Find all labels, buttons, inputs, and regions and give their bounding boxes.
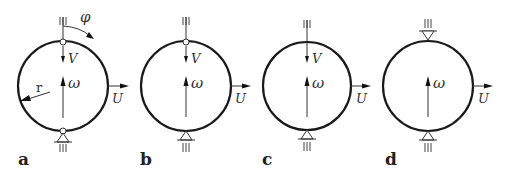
ground-hatch-bottom-icon — [304, 142, 310, 151]
omega-symbol: ω — [68, 74, 80, 92]
u-symbol: U — [235, 91, 247, 106]
ground-hatch-top-icon — [425, 19, 431, 28]
omega-arrowhead-icon — [184, 76, 189, 86]
panel-label-a: a — [18, 149, 29, 169]
panel-c: V ω U c — [262, 20, 371, 169]
top-pin-support-icon — [422, 31, 434, 40]
u-symbol: U — [356, 91, 368, 106]
v-arrowhead-icon — [184, 56, 188, 63]
u-symbol: U — [478, 91, 490, 106]
v-symbol: V — [191, 51, 202, 66]
phi-arc — [63, 26, 90, 36]
bottom-pin-support-icon — [301, 130, 313, 139]
panel-d: ω U d — [383, 19, 493, 169]
figure-canvas: φ V ω r U a — [0, 0, 509, 170]
bottom-pin-support-icon — [57, 133, 69, 142]
v-arrowhead-icon — [305, 56, 309, 63]
panel-label-b: b — [140, 149, 152, 169]
ground-hatch-bottom-icon — [183, 143, 189, 152]
radius-arrowhead-icon — [20, 95, 31, 101]
bottom-pin-support-icon — [422, 131, 434, 140]
u-arrowhead-icon — [242, 84, 251, 89]
v-symbol: V — [68, 51, 79, 66]
bottom-pin-support-icon — [180, 131, 192, 140]
v-symbol: V — [312, 51, 323, 66]
panel-label-c: c — [262, 149, 272, 169]
mechanics-diagram: φ V ω r U a — [0, 0, 509, 170]
phi-symbol: φ — [80, 8, 91, 26]
ground-hatch-bottom-icon — [60, 144, 66, 152]
omega-symbol: ω — [191, 74, 203, 92]
v-arrowhead-icon — [61, 56, 65, 63]
u-symbol: U — [112, 91, 124, 106]
omega-arrowhead-icon — [426, 76, 431, 86]
ground-hatch-bottom-icon — [425, 143, 431, 152]
panel-a: φ V ω r U a — [18, 8, 129, 169]
omega-symbol: ω — [312, 74, 324, 92]
omega-symbol: ω — [433, 74, 445, 92]
panel-b: V ω U b — [140, 17, 251, 169]
omega-arrowhead-icon — [61, 76, 66, 86]
omega-arrowhead-icon — [305, 76, 310, 86]
phi-arrowhead-icon — [86, 32, 94, 39]
u-arrowhead-icon — [120, 84, 129, 89]
top-hinge-icon — [60, 39, 66, 45]
top-hinge-icon — [183, 39, 189, 45]
u-arrowhead-icon — [362, 84, 371, 89]
u-arrowhead-icon — [484, 84, 493, 89]
radius-symbol: r — [36, 80, 43, 95]
panel-label-d: d — [385, 149, 397, 169]
